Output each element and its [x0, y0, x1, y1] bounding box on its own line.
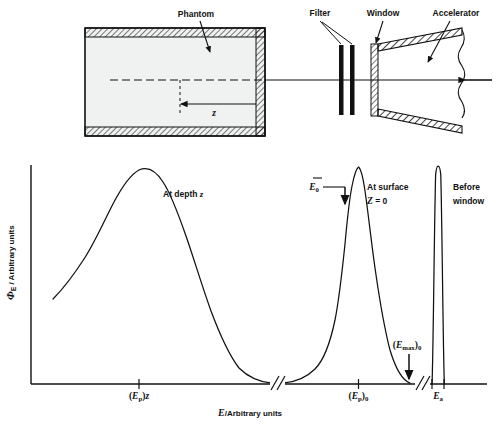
curve-before-window: [432, 166, 444, 384]
tick-label-ep-0: (Ep)0: [349, 391, 369, 402]
e-bar-0-label: E0: [308, 182, 319, 193]
y-axis-label: ΦE / Arbitrary units: [4, 225, 17, 300]
window-leader-arrow: [376, 21, 383, 43]
phantom-label: Phantom: [178, 9, 215, 19]
figure-container: Phantom z Filter Window: [0, 0, 501, 428]
apparatus-diagram: Phantom z Filter Window: [85, 8, 492, 136]
tick-label-ep-z: (Ep)z: [129, 391, 149, 402]
accelerator-leader-arrow: [428, 21, 450, 62]
curve-at-surface: [283, 167, 410, 383]
annotation-before-window-line1: Before: [453, 182, 480, 192]
filter-leader-1: [320, 21, 341, 44]
filter-plate-2: [350, 45, 355, 115]
x-axis-label: E/Arbitrary units: [217, 407, 283, 418]
figure-svg: Phantom z Filter Window: [0, 0, 501, 428]
filter-leader-2: [322, 22, 352, 44]
spectrum-chart: ΦE / Arbitrary units E/Arbitrary units: [4, 165, 487, 418]
annotation-e-max-0: (Emax)0: [393, 340, 422, 379]
e-max-0-label: (Emax)0: [393, 340, 422, 351]
annotation-at-depth-z: At depth z: [163, 189, 204, 199]
window-label: Window: [367, 8, 400, 18]
filter-label: Filter: [310, 8, 331, 18]
tick-label-ea: Ea: [432, 391, 443, 402]
accelerator-torn-edge: [458, 30, 465, 118]
window-bar: [371, 44, 378, 116]
phantom-block: [85, 28, 265, 136]
accelerator-upper-wall: [378, 28, 462, 51]
annotation-at-surface-line2: Z = 0: [366, 196, 387, 206]
curve-at-depth-z: [53, 169, 272, 384]
accelerator-label: Accelerator: [433, 8, 480, 18]
y-axis-label-group: ΦE / Arbitrary units: [4, 225, 17, 300]
axis-break-right: [415, 376, 430, 390]
accelerator-lower-wall: [378, 109, 462, 133]
annotation-at-surface-line1: At surface: [367, 182, 409, 192]
annotation-e-bar-0: E0: [308, 178, 345, 204]
filter-plate-1: [339, 45, 344, 115]
depth-label: z: [211, 108, 216, 118]
window-plate: [371, 44, 378, 116]
axis-break-left: [270, 376, 285, 390]
annotation-before-window-line2: window: [452, 196, 485, 206]
